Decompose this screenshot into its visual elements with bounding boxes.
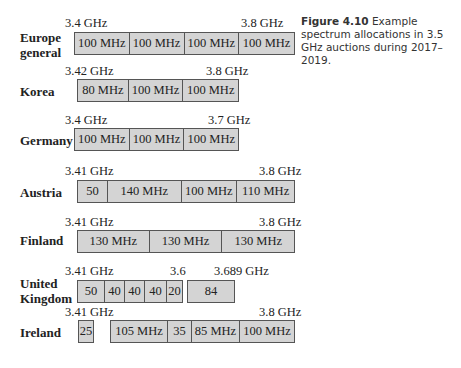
allocation-bar: 130 MHz 130 MHz 130 MHz (77, 230, 295, 253)
allocation-bar: 100 MHz 100 MHz 100 MHz 100 MHz (74, 32, 295, 55)
start-freq: 3.41 GHz (65, 264, 114, 279)
end-freq: 3.8 GHz (259, 215, 301, 230)
country-label: Germany (20, 133, 73, 148)
allocation-bar: 100 MHz 100 MHz 100 MHz (74, 128, 239, 151)
end-freq: 3.8 GHz (259, 164, 301, 179)
end-freq: 3.689 GHz (214, 264, 269, 279)
start-freq: 3.41 GHz (65, 215, 114, 230)
allocation-bar: 50 40 40 40 20 (77, 280, 183, 303)
start-freq: 3.42 GHz (65, 64, 114, 79)
country-label: Austria (20, 185, 62, 200)
start-freq: 3.4 GHz (65, 113, 107, 128)
end-freq: 3.8 GHz (241, 16, 283, 31)
end-freq: 3.8 GHz (206, 64, 248, 79)
country-label: Korea (20, 84, 54, 99)
allocation-bar: 25 (78, 320, 94, 343)
end-freq: 3.8 GHz (259, 305, 301, 320)
country-label: Finland (20, 233, 63, 248)
start-freq: 3.41 GHz (65, 164, 114, 179)
allocation-bar: 50 140 MHz 100 MHz 110 MHz (77, 180, 295, 203)
allocation-bar: 84 (187, 280, 235, 303)
country-label: United Kingdom (20, 276, 70, 306)
mid-freq: 3.6 (170, 264, 186, 279)
country-label: Europe general (20, 30, 70, 60)
end-freq: 3.7 GHz (208, 113, 250, 128)
start-freq: 3.41 GHz (65, 305, 114, 320)
country-label: Ireland (20, 325, 61, 340)
start-freq: 3.4 GHz (65, 16, 107, 31)
allocation-bar: 80 MHz 100 MHz 100 MHz (77, 79, 239, 102)
allocation-bar: 105 MHz 35 85 MHz 100 MHz (110, 320, 295, 343)
figure-caption: Figure 4.10 Example spectrum allocations… (301, 15, 461, 67)
